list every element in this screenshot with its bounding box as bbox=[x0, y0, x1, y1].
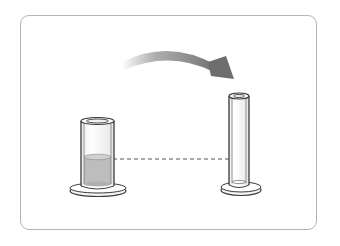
liquid bbox=[84, 157, 111, 184]
narrow-tube bbox=[221, 93, 261, 196]
pour-arrow-icon bbox=[122, 51, 234, 79]
diagram-illustration bbox=[0, 0, 340, 246]
wide-cylinder bbox=[70, 118, 126, 197]
